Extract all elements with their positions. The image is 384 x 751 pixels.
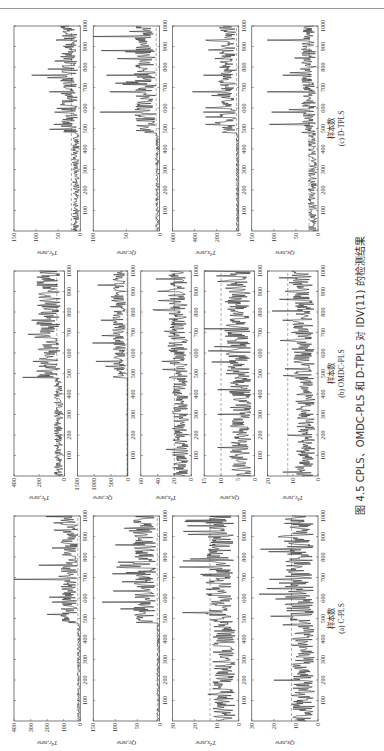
svg-text:T²c,new: T²c,new (282, 495, 303, 502)
svg-text:800: 800 (319, 62, 326, 71)
svg-text:800: 800 (161, 62, 168, 71)
svg-text:400: 400 (240, 144, 247, 153)
svg-text:400: 400 (161, 634, 168, 643)
svg-text:200: 200 (319, 185, 326, 194)
svg-text:30: 30 (248, 723, 255, 729)
panel-0: 1002003004005006007008009001000010020030… (10, 510, 346, 747)
svg-text:200: 200 (161, 185, 168, 194)
svg-text:Qc,new: Qc,new (116, 740, 136, 747)
svg-text:500: 500 (161, 124, 168, 133)
svg-text:Qc,new: Qc,new (116, 250, 136, 257)
svg-text:400: 400 (319, 634, 326, 643)
svg-text:900: 900 (192, 287, 199, 296)
panel-2: 1002003004005006007008009001000050100150… (10, 20, 346, 257)
svg-text:900: 900 (81, 532, 88, 541)
svg-text:T²c,new: T²c,new (36, 740, 57, 747)
svg-text:600: 600 (240, 103, 247, 112)
svg-text:800: 800 (256, 307, 263, 316)
svg-text:300: 300 (240, 655, 247, 664)
svg-text:30: 30 (169, 723, 176, 729)
svg-text:700: 700 (81, 573, 88, 582)
panel-1: 10020030040050060070080090010000200400T²… (10, 265, 346, 502)
svg-text:50: 50 (122, 233, 129, 239)
svg-text:100: 100 (89, 233, 96, 242)
svg-text:700: 700 (256, 328, 263, 337)
svg-text:600: 600 (319, 593, 326, 602)
svg-text:0: 0 (314, 723, 321, 726)
svg-text:样本数: 样本数 (326, 117, 336, 139)
svg-text:1000: 1000 (192, 265, 199, 277)
svg-text:400: 400 (191, 233, 198, 242)
svg-text:1000: 1000 (161, 20, 168, 32)
svg-text:100: 100 (161, 696, 168, 705)
svg-text:20: 20 (264, 478, 271, 484)
svg-text:0: 0 (187, 478, 194, 481)
svg-text:700: 700 (192, 328, 199, 337)
svg-text:300: 300 (161, 165, 168, 174)
svg-text:300: 300 (240, 165, 247, 174)
svg-text:500: 500 (107, 478, 114, 487)
svg-text:T²x,new: T²x,new (195, 250, 216, 257)
svg-text:600: 600 (161, 593, 168, 602)
svg-text:600: 600 (81, 593, 88, 602)
svg-text:200: 200 (65, 430, 72, 439)
svg-text:700: 700 (319, 83, 326, 92)
svg-text:800: 800 (319, 307, 326, 316)
subplot: 100200300400500600700800900100001020T²c,… (264, 265, 326, 502)
svg-text:400: 400 (240, 634, 247, 643)
svg-text:800: 800 (192, 307, 199, 316)
svg-text:100: 100 (240, 206, 247, 215)
svg-text:500: 500 (319, 614, 326, 623)
svg-text:700: 700 (319, 328, 326, 337)
svg-text:200: 200 (161, 675, 168, 684)
svg-text:40: 40 (154, 478, 161, 484)
svg-text:400: 400 (10, 723, 17, 732)
subplot: 1002003004005006007008009001000050100150… (89, 510, 167, 747)
svg-text:300: 300 (319, 165, 326, 174)
svg-text:200: 200 (81, 675, 88, 684)
svg-text:Qx,new: Qx,new (274, 740, 294, 747)
svg-text:Qc,new: Qc,new (92, 495, 112, 502)
svg-text:900: 900 (319, 42, 326, 51)
svg-text:200: 200 (43, 723, 50, 732)
svg-text:200: 200 (319, 430, 326, 439)
svg-text:样本数: 样本数 (326, 362, 336, 384)
svg-text:300: 300 (256, 410, 263, 419)
svg-text:200: 200 (192, 430, 199, 439)
subplot: 1002003004005006007008009001000050100Qc,… (89, 20, 167, 257)
svg-text:10: 10 (289, 478, 296, 484)
subplot: 10020030040050060070080090010000102030Qx… (248, 510, 326, 747)
svg-text:200: 200 (240, 185, 247, 194)
svg-text:1000: 1000 (129, 265, 136, 277)
svg-text:800: 800 (129, 307, 136, 316)
svg-text:900: 900 (129, 287, 136, 296)
svg-text:Qx,new: Qx,new (219, 495, 239, 502)
svg-text:1000: 1000 (319, 510, 326, 522)
svg-text:700: 700 (129, 328, 136, 337)
svg-text:100: 100 (81, 696, 88, 705)
svg-text:100: 100 (256, 451, 263, 460)
figure-caption: 图 4.5 CPLS、OMDC-PLS 和 D-TPLS 对 IDV(11) 的… (352, 0, 367, 751)
svg-text:300: 300 (192, 410, 199, 419)
svg-text:10: 10 (292, 723, 299, 729)
svg-text:300: 300 (319, 410, 326, 419)
svg-text:500: 500 (129, 369, 136, 378)
svg-text:200: 200 (319, 675, 326, 684)
svg-text:900: 900 (161, 42, 168, 51)
svg-text:50: 50 (54, 233, 61, 239)
figure-page: 1002003004005006007008009001000010020030… (0, 0, 384, 751)
svg-text:700: 700 (161, 573, 168, 582)
svg-text:(c) D-TPLS: (c) D-TPLS (337, 111, 346, 147)
svg-text:100: 100 (319, 696, 326, 705)
svg-text:700: 700 (240, 83, 247, 92)
svg-text:400: 400 (192, 389, 199, 398)
svg-text:1000: 1000 (319, 20, 326, 32)
svg-text:100: 100 (319, 206, 326, 215)
svg-text:样本数: 样本数 (326, 607, 336, 629)
svg-text:1000: 1000 (256, 265, 263, 277)
svg-text:100: 100 (65, 451, 72, 460)
svg-text:700: 700 (319, 573, 326, 582)
svg-text:1000: 1000 (81, 510, 88, 522)
svg-text:800: 800 (240, 552, 247, 561)
svg-text:900: 900 (161, 532, 168, 541)
